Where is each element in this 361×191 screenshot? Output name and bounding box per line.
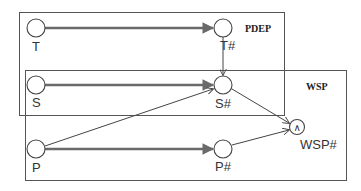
and-icon: ∧ — [294, 122, 301, 133]
node-t-label: T — [32, 39, 40, 54]
node-p-label: P — [32, 160, 41, 175]
node-tsharp: T# — [214, 19, 236, 53]
node-p: P — [27, 140, 45, 175]
node-tsharp-label: T# — [220, 38, 236, 53]
node-s: S — [27, 76, 45, 110]
place-circle — [214, 140, 232, 158]
place-circle — [27, 76, 45, 94]
edge-p-to-ssharp — [45, 89, 213, 146]
node-psharp-label: P# — [215, 159, 232, 174]
diagram-canvas: PDEP WSP T S P T# S# P# ∧ WSP# — [0, 0, 361, 191]
place-circle — [27, 19, 45, 37]
node-ssharp-label: S# — [215, 96, 232, 111]
node-wspsharp-label: WSP# — [300, 137, 338, 152]
node-t: T — [27, 19, 45, 54]
wsp-group-label: WSP — [306, 81, 328, 92]
pdep-group-label: PDEP — [245, 23, 271, 34]
place-circle — [27, 140, 45, 158]
edge-ssharp-to-wspsharp — [232, 89, 289, 123]
place-circle — [214, 19, 232, 37]
node-ssharp: S# — [214, 76, 232, 111]
place-circle — [214, 76, 232, 94]
node-psharp: P# — [214, 140, 232, 174]
node-wspsharp: ∧ WSP# — [290, 120, 338, 153]
node-s-label: S — [32, 95, 41, 110]
edge-psharp-to-wspsharp — [232, 130, 289, 145]
